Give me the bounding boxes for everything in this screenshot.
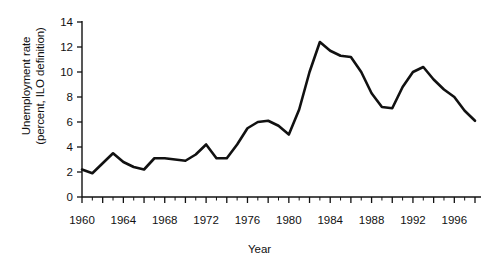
y-tick-label: 6	[67, 116, 73, 128]
y-tick-label: 14	[60, 16, 73, 28]
y-tick-group: 02468101214	[60, 16, 82, 203]
chart-figure: Unemployment rate (percent, ILO definiti…	[0, 0, 501, 272]
x-tick-label: 1980	[276, 214, 302, 226]
x-tick-label: 1976	[235, 214, 261, 226]
y-tick-label: 12	[60, 41, 73, 53]
x-tick-label: 1964	[111, 214, 137, 226]
x-tick-label: 1968	[152, 214, 178, 226]
y-tick-label: 4	[67, 141, 74, 153]
plot-area: 02468101214 1960196419681972197619801984…	[0, 0, 501, 272]
x-tick-label: 1996	[442, 214, 468, 226]
y-tick-label: 8	[67, 91, 73, 103]
y-tick-label: 10	[60, 66, 73, 78]
y-tick-label: 0	[67, 191, 73, 203]
y-tick-label: 2	[67, 166, 73, 178]
x-tick-label: 1992	[400, 214, 426, 226]
series-line-unemployment-rate	[82, 42, 475, 173]
x-tick-label: 1988	[359, 214, 385, 226]
x-tick-label: 1984	[317, 214, 343, 226]
x-tick-label: 1960	[69, 214, 95, 226]
x-tick-label: 1972	[193, 214, 219, 226]
x-tick-group: 1960196419681972197619801984198819921996	[69, 197, 475, 226]
